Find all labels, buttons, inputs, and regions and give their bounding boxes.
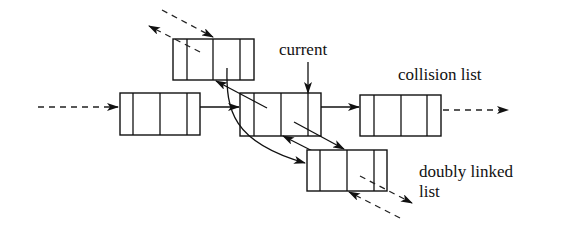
collision-list-label: collision list bbox=[398, 65, 482, 84]
current-label: current bbox=[279, 40, 327, 59]
doubly-linked-label-line2: list bbox=[419, 182, 440, 201]
incoming-dashed-prev-arrow bbox=[162, 10, 213, 37]
node-bottom bbox=[307, 150, 387, 191]
node-left bbox=[120, 93, 200, 135]
linked-list-diagram: current collision list doubly linked lis… bbox=[0, 0, 574, 241]
node-right bbox=[360, 95, 441, 136]
incoming-dashed-next-arrow bbox=[349, 192, 400, 218]
doubly-linked-label-line1: doubly linked bbox=[419, 162, 513, 181]
